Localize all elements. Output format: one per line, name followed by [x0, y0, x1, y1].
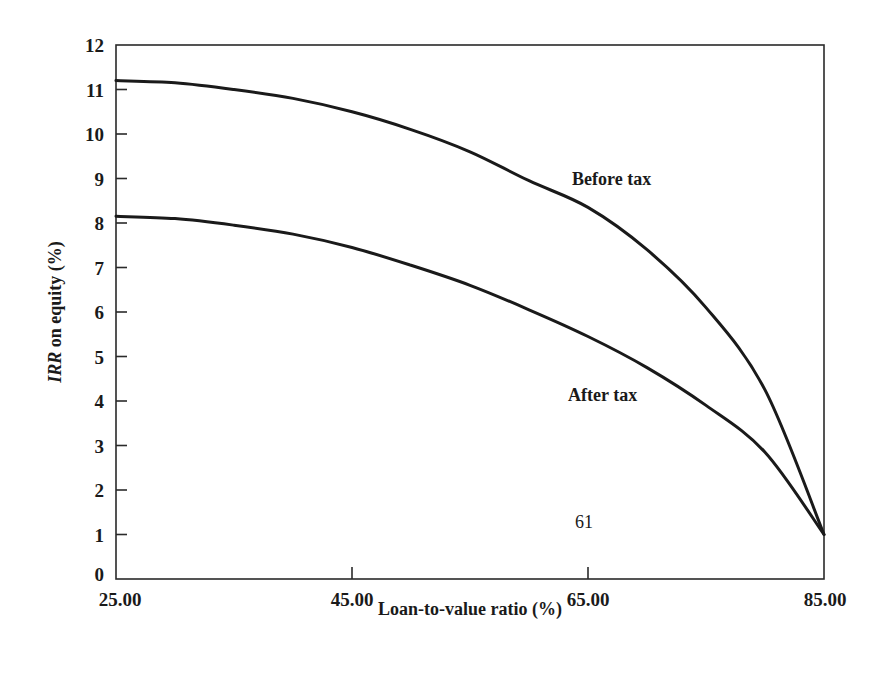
x-tick-label: 65.00 [567, 589, 610, 610]
y-tick-label: 10 [85, 124, 104, 145]
y-tick-label: 12 [85, 35, 104, 56]
before-tax-label: Before tax [572, 169, 651, 189]
y-tick-label: 7 [95, 258, 105, 279]
y-tick-label: 9 [95, 169, 105, 190]
plot-frame [116, 45, 824, 579]
page-number-annotation: 61 [575, 512, 593, 532]
y-axis-title-rest: on equity (%) [45, 241, 66, 352]
series-group [116, 81, 824, 535]
y-tick-label: 8 [95, 213, 105, 234]
x-tick-label: 85.00 [804, 589, 847, 610]
y-tick-label: 1 [95, 525, 105, 546]
x-tick-label: 45.00 [331, 589, 374, 610]
y-tick-label: 4 [95, 391, 105, 412]
after-tax-curve [116, 216, 824, 534]
after-tax-label: After tax [568, 385, 637, 405]
y-axis-title-italic: IRR [45, 352, 65, 384]
y-axis: 0123456789101112 [85, 35, 127, 585]
y-tick-label: 2 [95, 480, 105, 501]
before-tax-curve [116, 81, 824, 535]
y-tick-label: 0 [95, 564, 105, 585]
y-tick-label: 3 [95, 436, 105, 457]
y-tick-label: 5 [95, 347, 105, 368]
y-tick-label: 11 [86, 80, 104, 101]
line-chart: 0123456789101112 25.0045.0065.0085.00 Be… [0, 0, 892, 674]
chart-container: 0123456789101112 25.0045.0065.0085.00 Be… [0, 0, 892, 674]
y-axis-title: IRR on equity (%) [45, 241, 66, 384]
x-tick-label: 25.00 [99, 589, 142, 610]
x-axis-title: Loan-to-value ratio (%) [378, 599, 562, 620]
y-tick-label: 6 [95, 302, 105, 323]
